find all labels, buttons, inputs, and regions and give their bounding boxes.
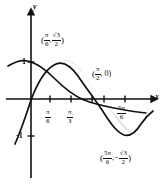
annotation-content: ( π 6 , √3 2 ) bbox=[41, 32, 64, 48]
x-tick-label-five-pi-over-6: 5π 6 bbox=[117, 104, 126, 121]
annotation-content: ( 5π 6 , − √3 2 ) bbox=[100, 150, 131, 166]
fraction-x-value: 5π 6 bbox=[103, 150, 112, 166]
fraction-denominator: 6 bbox=[117, 114, 126, 121]
annotation-max-point: ( π 6 , √3 2 ) bbox=[41, 32, 64, 48]
fraction-numerator: 5π bbox=[117, 105, 126, 112]
close-paren: ) bbox=[61, 36, 64, 45]
fraction-denominator: 2 bbox=[119, 159, 128, 166]
fraction-denominator: 3 bbox=[67, 118, 73, 125]
fraction-y-value: √3 2 bbox=[52, 32, 61, 48]
plot-canvas bbox=[0, 0, 166, 186]
annotation-zero-point: ( π 2 , 0) bbox=[92, 66, 111, 82]
fraction-numerator: 5π bbox=[103, 150, 112, 157]
close-paren: ) bbox=[128, 154, 131, 163]
fraction-denominator: 6 bbox=[45, 118, 51, 125]
annotation-content: ( π 2 , 0) bbox=[92, 66, 111, 82]
annotation-min-point: ( 5π 6 , − √3 2 ) bbox=[100, 150, 131, 166]
fraction-numerator: π bbox=[67, 109, 73, 116]
y-tick-label-negative-one: -1 bbox=[16, 132, 23, 140]
fraction-five-pi-over-6: 5π 6 bbox=[117, 105, 126, 121]
fraction-numerator: π bbox=[45, 109, 51, 116]
trig-graph-figure: y x 1 -1 π 6 π 3 5π 6 ( π bbox=[0, 0, 166, 186]
fraction-numerator: √3 bbox=[52, 32, 61, 39]
y-axis-label: y bbox=[33, 3, 37, 11]
fraction-y-value: √3 2 bbox=[119, 150, 128, 166]
fraction-numerator: √3 bbox=[119, 150, 128, 157]
x-axis-label: x bbox=[155, 93, 159, 101]
comma-and-zero: , 0) bbox=[101, 70, 112, 78]
fraction-denominator: 2 bbox=[52, 41, 61, 48]
x-tick-label-pi-over-6: π 6 bbox=[45, 108, 51, 125]
fraction-denominator: 6 bbox=[103, 159, 112, 166]
y-tick-label-one: 1 bbox=[22, 58, 26, 66]
fraction-pi-over-6: π 6 bbox=[45, 109, 51, 125]
fraction-pi-over-3: π 3 bbox=[67, 109, 73, 125]
x-tick-label-pi-over-3: π 3 bbox=[67, 108, 73, 125]
